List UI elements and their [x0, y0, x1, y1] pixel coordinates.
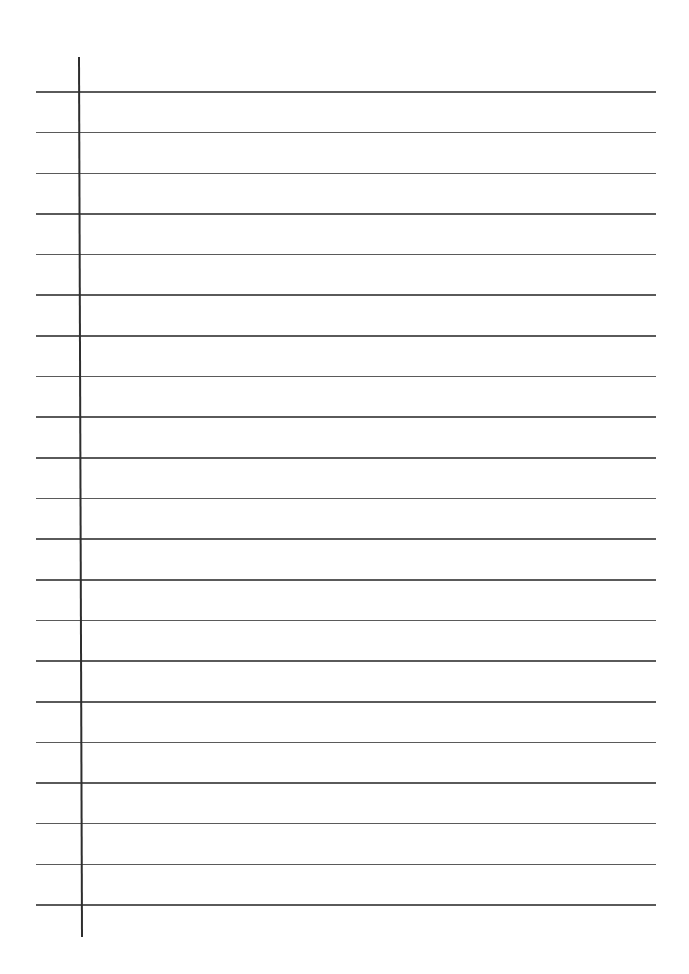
- ruled-line: [36, 864, 656, 866]
- ruled-line: [36, 91, 656, 93]
- ruled-line: [36, 132, 656, 134]
- ruled-line: [36, 823, 656, 825]
- ruled-line: [36, 416, 656, 418]
- ruled-line: [36, 376, 656, 378]
- ruled-line: [36, 254, 656, 256]
- ruled-line: [36, 742, 656, 744]
- ruled-line: [36, 335, 656, 337]
- ruled-line: [36, 294, 656, 296]
- ruled-line: [36, 620, 656, 622]
- ruled-line: [36, 904, 656, 906]
- ruled-paper-sheet: [0, 0, 689, 974]
- ruled-line: [36, 579, 656, 581]
- ruled-line: [36, 538, 656, 540]
- ruled-line: [36, 457, 656, 459]
- ruled-line: [36, 173, 656, 175]
- ruled-line: [36, 782, 656, 784]
- ruled-line: [36, 701, 656, 703]
- ruled-line: [36, 213, 656, 215]
- ruled-line: [36, 660, 656, 662]
- ruled-line: [36, 498, 656, 500]
